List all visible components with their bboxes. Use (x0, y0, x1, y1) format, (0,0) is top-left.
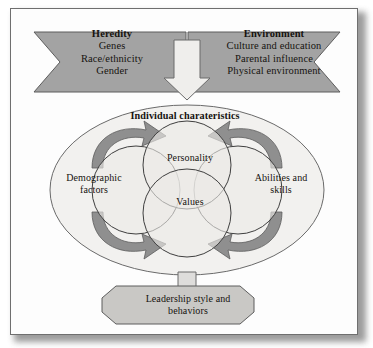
environment-banner (188, 32, 340, 92)
diagram-canvas (0, 0, 373, 348)
heredity-banner (34, 32, 186, 92)
circle-values (143, 169, 231, 257)
figure-page: Heredity Genes Race/ethnicity Gender Env… (0, 0, 373, 348)
outcome-octagon (102, 286, 254, 324)
